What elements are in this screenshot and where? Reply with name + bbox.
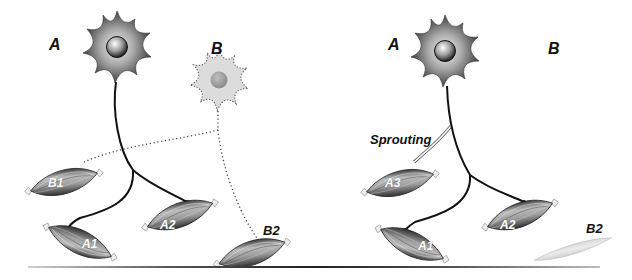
label-muscle-a1-left: A1 (82, 238, 97, 250)
muscle-fiber-a1-left (38, 219, 122, 264)
left-panel (23, 11, 293, 271)
label-sprouting: Sprouting (370, 133, 431, 146)
neuron-a-axon-left (115, 82, 187, 202)
label-muscle-b2-left: B2 (263, 224, 280, 237)
label-neuron-a-right: A (388, 37, 400, 53)
label-muscle-b1-left: B1 (48, 177, 63, 189)
neuron-a-axon-right (447, 86, 524, 202)
label-muscle-a3-right: A3 (385, 177, 400, 189)
label-neuron-b-left: B (211, 41, 223, 57)
bottom-divider (28, 266, 600, 268)
label-neuron-b-right: B (548, 41, 560, 57)
neuron-b-left (190, 49, 248, 110)
diagram-canvas: A B B1 A1 A2 B2 A B Sprouting A3 A1 A2 B… (0, 0, 632, 280)
muscle-fiber-a2-right (478, 196, 561, 235)
neuron-a-left (83, 11, 151, 83)
label-muscle-a1-right: A1 (418, 240, 433, 252)
label-neuron-a-left: A (49, 37, 61, 53)
label-muscle-a2-right: A2 (500, 219, 515, 231)
label-muscle-b2-right: B2 (586, 222, 603, 235)
muscle-fiber-b1-left (23, 166, 105, 198)
muscle-fiber-a2-left (138, 196, 221, 235)
muscle-fiber-b2-right-atrophied (533, 236, 613, 263)
muscle-fiber-a1-right (370, 221, 454, 266)
label-muscle-a2-left: A2 (160, 219, 175, 231)
neuron-a-right (411, 15, 479, 87)
